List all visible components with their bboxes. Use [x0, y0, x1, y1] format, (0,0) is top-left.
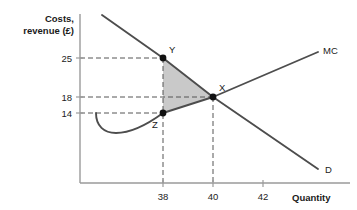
y-axis-title-line2: revenue (£): [23, 25, 74, 36]
point-marker-Z: [160, 110, 167, 117]
chart-canvas: Y X Z MC D 25 18 14 38 40 42 Costs, reve…: [0, 0, 357, 210]
point-label-Y: Y: [169, 44, 176, 55]
y-tick-label-14: 14: [61, 108, 72, 119]
point-marker-Y: [160, 55, 167, 62]
curve-label-mc: MC: [323, 45, 338, 56]
x-tick-label-40: 40: [208, 191, 219, 202]
y-tick-label-18: 18: [61, 92, 72, 103]
y-tick-label-25: 25: [61, 53, 72, 64]
x-tick-label-42: 42: [258, 191, 269, 202]
x-tick-label-38: 38: [158, 191, 169, 202]
curve-label-d: D: [325, 164, 332, 175]
point-label-Z: Z: [152, 119, 158, 130]
demand-curve: [102, 15, 318, 169]
point-label-X: X: [219, 82, 226, 93]
economics-chart: Y X Z MC D 25 18 14 38 40 42 Costs, reve…: [0, 0, 357, 210]
y-axis-title-line1: Costs,: [45, 13, 74, 24]
point-marker-X: [210, 94, 217, 101]
x-axis-title: Quantity: [292, 192, 331, 203]
